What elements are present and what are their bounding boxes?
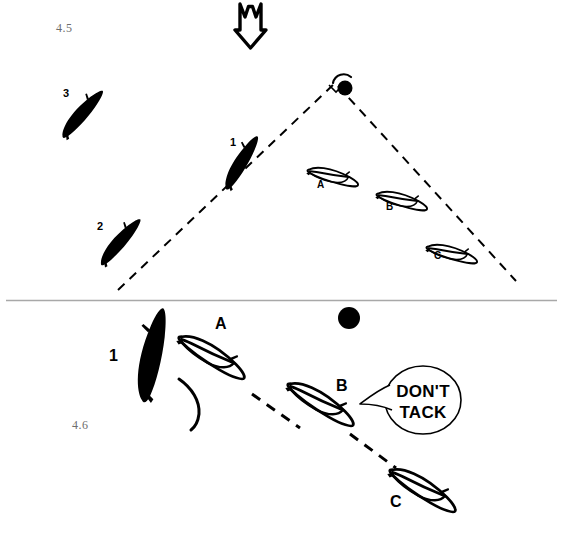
projected-course-line-ab: [252, 394, 300, 428]
boat-C-light: [425, 227, 481, 281]
boat-label-B-upper: B: [386, 202, 393, 212]
speech-bubble-line-1: DON'T: [392, 382, 454, 402]
boat-1-dark-lower: [107, 304, 197, 406]
boat-label-2: 2: [97, 221, 103, 232]
boat-label-A-lower: A: [215, 316, 227, 332]
boat-3-dark: [50, 86, 116, 141]
boat-label-3: 3: [63, 88, 69, 99]
boat-A-light: [306, 150, 362, 204]
sailing-tactics-illustration: [0, 0, 563, 541]
starboard-layline: [338, 86, 516, 281]
figure-number-4-6: 4.6: [72, 418, 89, 433]
boat-C-light-lower: [386, 449, 461, 531]
boat-label-1-upper: 1: [230, 137, 236, 148]
boat-label-C-lower: C: [390, 494, 402, 510]
mark-buoy-dot-lower: [338, 307, 360, 329]
boat-1-wake-trail: [179, 379, 199, 430]
boat-label-B-lower: B: [336, 378, 348, 394]
wind-direction-arrow: [235, 4, 266, 48]
mark-buoy-dot: [338, 81, 353, 96]
boat-label-1-lower: 1: [109, 348, 118, 364]
projected-course-line-bc: [350, 434, 396, 468]
boat-B-light-lower: [284, 363, 359, 445]
diagram-canvas: 4.5 4.6 3 2 1 A B C 1 A B C DON'T TACK: [0, 0, 563, 541]
boat-label-C-upper: C: [434, 251, 441, 261]
figure-number-4-5: 4.5: [56, 21, 73, 36]
boat-B-light: [375, 174, 431, 228]
boat-1-dark: [209, 132, 274, 192]
boat-label-A-upper: A: [317, 180, 324, 190]
upper-diagram-group: [50, 4, 516, 290]
speech-bubble-line-2: TACK: [392, 403, 454, 423]
